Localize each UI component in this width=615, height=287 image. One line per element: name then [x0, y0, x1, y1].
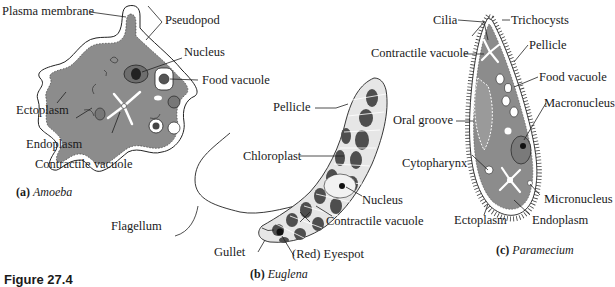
label-euglena-eyespot: (Red) Eyespot: [292, 248, 364, 261]
label-paramecium-pellicle: Pellicle: [529, 39, 567, 52]
figure-number: Figure 27.4: [4, 272, 73, 287]
label-pseudopod: Pseudopod: [165, 14, 220, 27]
caption-euglena: (b) Euglena: [250, 268, 308, 280]
label-euglena-gullet: Gullet: [214, 246, 245, 259]
label-euglena-chloroplast: Chloroplast: [243, 150, 301, 163]
label-paramecium-micronucleus: Micronucleus: [544, 193, 613, 206]
label-amoeba-ectoplasm: Ectoplasm: [16, 104, 69, 117]
caption-paramecium: (c) Paramecium: [496, 244, 574, 256]
label-plasma-membrane: Plasma membrane: [2, 5, 94, 18]
label-paramecium-contractile-vacuole: Contractile vacuole: [371, 47, 469, 60]
label-euglena-contractile-vacuole: Contractile vacuole: [326, 215, 424, 228]
label-amoeba-contractile-vacuole: Contractile vacuole: [35, 158, 133, 171]
label-euglena-pellicle: Pellicle: [273, 101, 311, 114]
label-amoeba-food-vacuole: Food vacuole: [202, 74, 270, 87]
label-paramecium-food-vacuole: Food vacuole: [539, 71, 607, 84]
caption-euglena-name: Euglena: [268, 267, 308, 281]
label-paramecium-trichocysts: Trichocysts: [511, 14, 569, 27]
caption-amoeba: (a) Amoeba: [16, 186, 72, 198]
label-paramecium-macronucleus: Macronucleus: [544, 97, 615, 110]
caption-euglena-letter: (b): [250, 267, 265, 281]
label-amoeba-endoplasm: Endoplasm: [26, 138, 82, 151]
label-euglena-nucleus: Nucleus: [362, 194, 403, 207]
caption-paramecium-name: Paramecium: [512, 243, 573, 257]
caption-amoeba-name: Amoeba: [33, 185, 72, 199]
label-paramecium-ectoplasm: Ectoplasm: [454, 214, 507, 227]
label-paramecium-cytopharynx: Cytopharynx: [402, 157, 467, 170]
label-paramecium-cilia: Cilia: [433, 14, 457, 27]
label-paramecium-oral-groove: Oral groove: [393, 114, 453, 127]
label-amoeba-nucleus: Nucleus: [184, 46, 225, 59]
caption-amoeba-letter: (a): [16, 185, 30, 199]
label-paramecium-endoplasm: Endoplasm: [532, 214, 588, 227]
caption-paramecium-letter: (c): [496, 243, 509, 257]
label-euglena-flagellum: Flagellum: [111, 220, 162, 233]
